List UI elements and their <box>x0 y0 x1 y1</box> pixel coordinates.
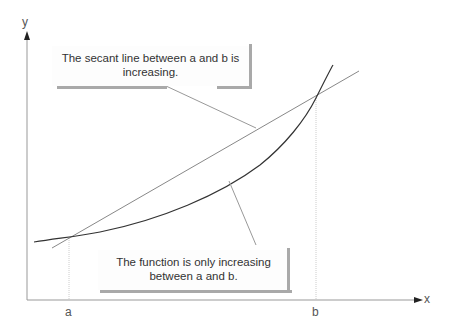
tick-label-b: b <box>312 305 319 319</box>
secant-callout-shadow-side <box>249 44 252 89</box>
x-axis-arrow-icon <box>414 297 423 303</box>
secant-callout-line1: The secant line between a and b is <box>52 51 249 65</box>
x-axis-label: x <box>424 292 430 306</box>
function-callout-shadow-side <box>287 248 290 293</box>
function-callout: The function is only increasing between … <box>98 250 289 290</box>
secant-callout-shadow-left <box>57 86 167 89</box>
y-axis-arrow-icon <box>24 31 30 40</box>
secant-line <box>52 71 359 248</box>
secant-callout-line2: increasing. <box>52 65 249 79</box>
tick-label-a: a <box>65 305 72 319</box>
function-callout-pointer <box>229 181 256 245</box>
function-callout-line2: between a and b. <box>98 269 289 283</box>
function-callout-shadow-bottom <box>100 290 292 293</box>
secant-callout-shadow-right <box>217 86 252 89</box>
secant-callout: The secant line between a and b is incre… <box>52 46 249 86</box>
y-axis-label: y <box>22 15 28 29</box>
function-curve <box>34 65 333 242</box>
function-callout-line1: The function is only increasing <box>98 255 289 269</box>
secant-callout-pointer <box>166 86 256 128</box>
